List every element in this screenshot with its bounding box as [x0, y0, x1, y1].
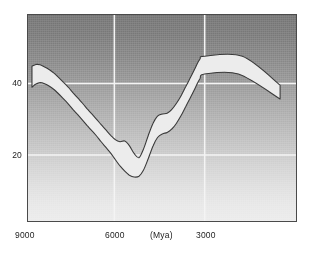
data-band: [32, 54, 280, 177]
plot-svg: [28, 15, 296, 221]
y-tick-label-40: 40: [2, 78, 22, 88]
plot-area: [27, 14, 297, 222]
x-axis-unit-label: (Mya): [150, 230, 173, 240]
chart-figure: 40 20 9000 6000 (Mya) 3000: [0, 0, 312, 256]
y-tick-label-20: 20: [2, 150, 22, 160]
x-tick-label-6000: 6000: [105, 230, 125, 240]
x-axis-label-row: 9000 6000 (Mya) 3000: [0, 230, 312, 242]
x-tick-label-9000: 9000: [15, 230, 35, 240]
x-tick-label-3000: 3000: [196, 230, 216, 240]
